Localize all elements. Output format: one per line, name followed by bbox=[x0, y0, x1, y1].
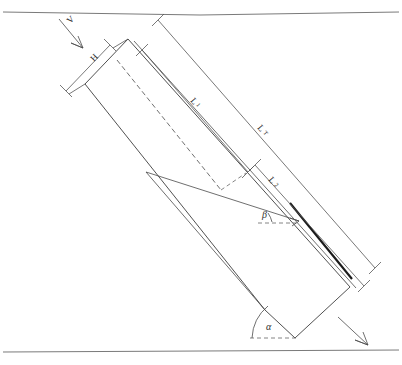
channel-wall-thickness-line bbox=[134, 41, 356, 288]
channel-wall-inner-right bbox=[128, 39, 350, 287]
channel-wall-outer-right bbox=[295, 287, 350, 338]
channel-geometry-drawing: β α V H L 1 L T L 2 bbox=[0, 0, 402, 365]
lt-label-subscript: T bbox=[262, 130, 269, 137]
velocity-label: V bbox=[65, 13, 77, 25]
construction-line-to-wall bbox=[221, 173, 246, 190]
datum-line-top bbox=[3, 12, 399, 15]
l2-label-subscript: 2 bbox=[273, 182, 279, 188]
datum-line-bottom bbox=[3, 350, 399, 352]
channel-end-face-upper bbox=[85, 39, 128, 84]
beta-angle-arc bbox=[268, 213, 272, 222]
outflow-arrow-shaft bbox=[338, 317, 368, 345]
channel-wall-outer-left bbox=[85, 84, 265, 310]
lt-dimension-line bbox=[158, 20, 375, 268]
alpha-angle-label: α bbox=[266, 321, 272, 332]
beta-angle-label: β bbox=[261, 209, 267, 220]
wedge-ray-lower bbox=[146, 172, 265, 310]
diagram-canvas: β α V H L 1 L T L 2 bbox=[0, 0, 402, 365]
h-dimension-line bbox=[66, 45, 110, 91]
height-label: H bbox=[88, 51, 100, 63]
